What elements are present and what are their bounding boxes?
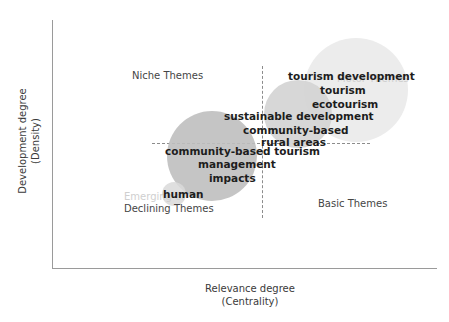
quadrant-label-declining: Declining Themes: [124, 203, 214, 214]
x-axis-line: [52, 268, 437, 269]
term-sustainable-development: sustainable development: [224, 110, 374, 122]
term-community-based: community-based: [243, 124, 349, 136]
thematic-map-chart: Motor Themes Emerging or tourism develop…: [0, 0, 449, 322]
y-axis-line: [52, 20, 53, 269]
term-ecotourism: ecotourism: [312, 98, 378, 110]
y-axis-title-line1: Development degree: [16, 71, 29, 211]
quadrant-label-basic: Basic Themes: [318, 198, 387, 209]
term-tourism-development: tourism development: [288, 70, 415, 82]
term-impacts: impacts: [209, 172, 256, 184]
x-axis-title: Relevance degree (Centrality): [165, 282, 335, 308]
y-axis-title-line2: (Density): [29, 71, 42, 211]
quadrant-label-niche: Niche Themes: [132, 70, 203, 81]
term-community-based-tourism: community-based tourism: [165, 145, 320, 157]
y-axis-title: Development degree (Density): [16, 71, 42, 211]
x-axis-title-line1: Relevance degree: [165, 282, 335, 295]
x-axis-title-line2: (Centrality): [165, 295, 335, 308]
term-human: human: [163, 188, 203, 200]
term-management: management: [198, 158, 276, 170]
term-tourism: tourism: [320, 84, 366, 96]
